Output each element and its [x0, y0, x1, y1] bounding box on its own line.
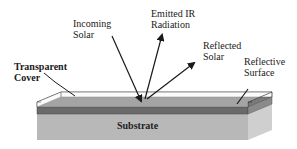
transparent-cover-line2: Cover — [14, 72, 67, 83]
reflective-surface-line2: Surface — [244, 67, 285, 78]
incoming-solar-line1: Incoming — [73, 18, 111, 29]
radiative-cooling-diagram: Incoming Solar Emitted IR Radiation Refl… — [0, 0, 297, 149]
reflected-solar-label: Reflected Solar — [203, 40, 241, 62]
emitted-ir-line2: Radiation — [151, 19, 195, 30]
transparent-cover-label: Transparent Cover — [14, 61, 67, 83]
incoming-solar-label: Incoming Solar — [73, 18, 111, 40]
incoming-solar-line2: Solar — [73, 29, 111, 40]
reflective-front-face — [37, 107, 248, 114]
transparent-cover-line1: Transparent — [14, 61, 67, 72]
reflective-surface-line1: Reflective — [244, 56, 285, 67]
incoming-solar-arrow — [112, 36, 141, 101]
substrate-label: Substrate — [117, 120, 158, 131]
reflective-surface-label: Reflective Surface — [244, 56, 285, 78]
emitted-ir-label: Emitted IR Radiation — [151, 8, 195, 30]
reflected-solar-line2: Solar — [203, 51, 241, 62]
reflected-solar-line1: Reflected — [203, 40, 241, 51]
emitted-ir-line1: Emitted IR — [151, 8, 195, 19]
